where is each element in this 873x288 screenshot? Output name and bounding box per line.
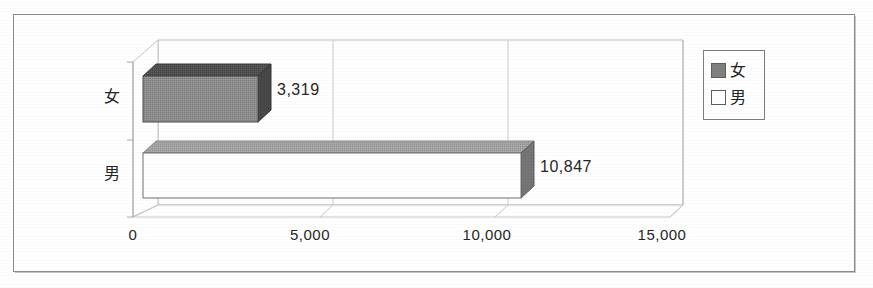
bar-male-top-face: [143, 141, 534, 153]
bar-female-top-face: [143, 64, 271, 76]
legend-swatch-female-icon: [711, 63, 726, 78]
chart-legend: 女 男: [703, 50, 765, 120]
xtick-label-5000: 5,000: [290, 226, 330, 243]
chart-plot-container: 3,319 10,847 女 男 0 5,000 10,000 15,000 女…: [0, 0, 873, 288]
bar-female-front-face: [143, 76, 258, 122]
xtick-label-10000: 10,000: [463, 226, 512, 243]
floor: [133, 205, 683, 217]
category-axis: [127, 62, 133, 217]
value-label-female: 3,319: [277, 81, 320, 98]
category-label-male: 男: [104, 165, 120, 182]
legend-label-female: 女: [730, 63, 746, 79]
xtick-label-15000: 15,000: [638, 226, 687, 243]
value-label-male: 10,847: [540, 158, 592, 175]
chart-page: 3,319 10,847 女 男 0 5,000 10,000 15,000 女…: [0, 0, 873, 288]
bar-female[interactable]: [143, 64, 271, 122]
category-label-female: 女: [104, 87, 120, 105]
legend-swatch-male-icon: [711, 90, 726, 105]
legend-item-male[interactable]: 男: [711, 84, 764, 111]
bar-chart-svg: 3,319 10,847 女 男 0 5,000 10,000 15,000: [0, 0, 873, 288]
bar-male[interactable]: [143, 141, 534, 198]
xtick-label-0: 0: [129, 226, 138, 243]
legend-item-female[interactable]: 女: [711, 57, 764, 84]
legend-label-male: 男: [730, 90, 746, 106]
bar-male-front-face: [143, 153, 521, 198]
